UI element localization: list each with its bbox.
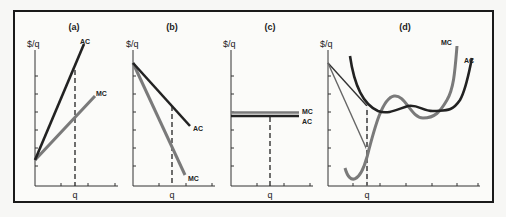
figure: (a) $/q AC MC q (b) $/q — [0, 0, 506, 217]
panel-a-ylabel: $/q — [27, 39, 40, 49]
panel-d-xlabel: q — [364, 190, 369, 200]
panel-d-ylabel: $/q — [320, 39, 333, 49]
panel-b-ac-label: AC — [193, 125, 203, 132]
panel-c-xlabel: q — [267, 190, 272, 200]
panel-d-ac-label: AC — [464, 57, 474, 64]
panel-c-title: (c) — [265, 22, 276, 32]
panel-c-ac-label: AC — [302, 118, 312, 125]
panel-a-mc-label: MC — [96, 90, 107, 97]
panel-a-xlabel: q — [72, 190, 77, 200]
panel-c-ylabel: $/q — [223, 39, 236, 49]
panel-a-title: (a) — [69, 22, 80, 32]
panel-d-mc-label: MC — [441, 39, 452, 46]
panel-b-title: (b) — [166, 22, 178, 32]
panel-c-mc-label: MC — [302, 108, 313, 115]
panel-b-mc-label: MC — [188, 175, 199, 182]
panel-b-ylabel: $/q — [126, 39, 139, 49]
panel-d-title: (d) — [399, 22, 411, 32]
panel-b-xlabel: q — [169, 190, 174, 200]
panel-a-ac-label: AC — [80, 38, 90, 45]
